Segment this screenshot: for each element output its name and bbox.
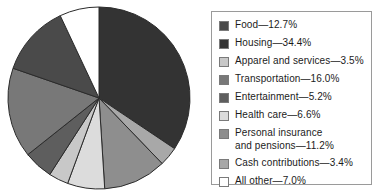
legend-item-label: Entertainment—5.2% (235, 90, 332, 103)
legend-item-label: Cash contributions—3.4% (235, 156, 353, 169)
legend-item[interactable]: All other—7.0% (219, 174, 368, 190)
legend-item-label: Transportation—16.0% (235, 72, 339, 85)
legend-swatch-icon (219, 21, 229, 31)
legend-item-label: Personal insurance and pensions—11.2% (235, 126, 334, 152)
legend-item-list: Food—12.7%Housing—34.4%Apparel and servi… (219, 18, 368, 192)
legend-item[interactable]: Housing—34.4% (219, 36, 368, 52)
legend-swatch-icon (219, 57, 229, 67)
legend-item[interactable]: Cash contributions—3.4% (219, 156, 368, 172)
legend-swatch-icon (219, 93, 229, 103)
legend-item-label: Apparel and services—3.5% (235, 54, 364, 67)
pie-chart-figure: Food—12.7%Housing—34.4%Apparel and servi… (0, 0, 382, 195)
legend-swatch-icon (219, 39, 229, 49)
legend-item[interactable]: Apparel and services—3.5% (219, 54, 368, 70)
legend-item-label: Food—12.7% (235, 18, 297, 31)
legend-swatch-icon (219, 129, 229, 139)
pie-svg (6, 3, 192, 193)
legend-item[interactable]: Entertainment—5.2% (219, 90, 368, 106)
legend-item-label: Health care—6.6% (235, 108, 321, 121)
legend-item-label: All other—7.0% (235, 174, 306, 187)
pie-chart-graphic (6, 3, 192, 193)
legend-item-label: Housing—34.4% (235, 36, 311, 49)
legend-swatch-icon (219, 111, 229, 121)
legend-swatch-icon (219, 75, 229, 85)
legend-item[interactable]: Food—12.7% (219, 18, 368, 34)
legend-swatch-icon (219, 177, 229, 187)
legend-swatch-icon (219, 159, 229, 169)
legend-item[interactable]: Health care—6.6% (219, 108, 368, 124)
legend-item[interactable]: Personal insurance and pensions—11.2% (219, 126, 368, 154)
legend-item[interactable]: Transportation—16.0% (219, 72, 368, 88)
chart-legend: Food—12.7%Housing—34.4%Apparel and servi… (211, 11, 372, 185)
